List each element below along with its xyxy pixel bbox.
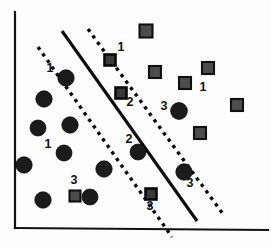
annotation-1-left-circle: 1: [47, 61, 54, 75]
data-point-circle: [56, 145, 72, 161]
plot-canvas: 1111223333: [0, 0, 271, 247]
data-point-square: [140, 25, 153, 38]
data-point-circle: [62, 117, 78, 133]
data-point-square: [116, 88, 127, 99]
data-point-square: [105, 55, 116, 66]
data-point-square: [231, 99, 243, 111]
annotation-3-square-bottom: 3: [147, 199, 154, 213]
data-point-square: [202, 62, 214, 74]
data-point-circle: [130, 144, 146, 160]
data-point-circle: [30, 120, 46, 136]
x-axis: [15, 228, 268, 230]
data-point-square: [70, 191, 81, 202]
data-point-circle: [82, 189, 98, 205]
data-points-group: [16, 25, 243, 209]
axes-group: [15, 12, 268, 230]
annotation-1-left-lower: 1: [45, 137, 52, 151]
data-point-circle: [58, 70, 74, 86]
annotation-1-square-sv: 1: [118, 40, 125, 54]
annotation-2-circle: 2: [126, 132, 133, 146]
data-point-circle: [36, 91, 52, 107]
annotation-3-square-left: 3: [71, 173, 78, 187]
data-point-square: [146, 189, 157, 200]
svm-margin-diagram: 1111223333: [0, 0, 271, 247]
data-point-circle: [35, 192, 51, 208]
annotation-1-right: 1: [200, 80, 207, 94]
data-point-square: [149, 66, 161, 78]
decision-boundary: [62, 31, 197, 221]
data-point-square: [194, 127, 206, 139]
annotation-3-circle-upper: 3: [161, 99, 168, 113]
data-point-circle: [96, 161, 112, 177]
data-point-square: [179, 77, 191, 89]
data-point-circle: [16, 157, 32, 173]
annotation-2-square: 2: [127, 95, 134, 109]
annotation-3-circle-lower: 3: [187, 176, 194, 190]
data-point-circle: [171, 103, 188, 120]
